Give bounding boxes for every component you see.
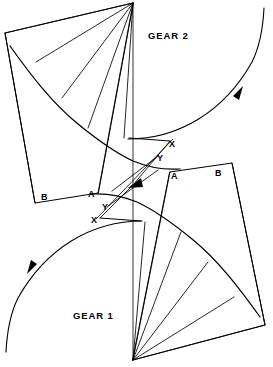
gear1-fan-line-5 — [133, 222, 145, 360]
gear2-group — [5, 3, 264, 203]
gear1-fan-line-4 — [133, 232, 181, 360]
gear1-point-b-label: B — [215, 169, 222, 178]
gear2-label: GEAR 2 — [148, 31, 189, 41]
gear1-point-y-label: Y — [102, 203, 108, 212]
gear2-chord-line-b — [5, 33, 35, 203]
gear-conjugate-action-diagram — [0, 0, 273, 367]
gear2-point-b-label: B — [41, 193, 48, 202]
gear1-tooth-tip — [100, 218, 141, 221]
gear1-pitch-arc — [6, 221, 142, 352]
gear2-fan-line-2 — [36, 3, 133, 62]
gear1-fan-line-3 — [133, 262, 208, 360]
gear2-pitch-arc — [128, 8, 264, 139]
gear2-point-x-label: X — [169, 140, 175, 149]
center-line-group — [96, 3, 173, 360]
gear1-involute-curve — [90, 194, 260, 317]
gear1-fan-line-1 — [133, 325, 265, 360]
gear1-point-x-label: X — [91, 216, 97, 225]
gear1-label: GEAR 1 — [73, 311, 114, 321]
gear2-point-a-label: A — [88, 190, 95, 199]
gear2-outer-quad — [5, 3, 133, 203]
gear1-fan-line-2 — [133, 297, 234, 360]
gear2-point-y-label: Y — [157, 154, 163, 163]
gear2-chord-line-a — [98, 3, 133, 193]
gear-diagram-page: GEAR 2 GEAR 1 X Y A B A B Y X — [0, 0, 273, 367]
gear1-point-a-label: A — [171, 172, 178, 181]
gear1-chord-line-a — [133, 172, 170, 360]
